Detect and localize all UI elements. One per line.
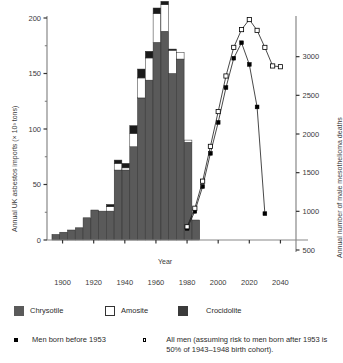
bar-segment (145, 80, 153, 240)
data-point-filled (232, 56, 236, 60)
y-tick-label-left: 0 (37, 236, 41, 245)
data-point-open (239, 28, 243, 32)
bar-segment (75, 228, 83, 240)
y-tick-label-right: 2500 (303, 91, 320, 100)
legend-item-amosite: Amosite (105, 306, 148, 316)
open-square-marker-icon (143, 338, 146, 342)
x-tick-label: 1920 (85, 278, 102, 287)
crocidolite-swatch-icon (178, 306, 188, 316)
bar-segment (99, 211, 107, 240)
x-tick-label: 2040 (272, 278, 289, 287)
bar-segment (122, 170, 130, 240)
data-point-open (185, 225, 189, 229)
legend-label-men-born-before-1953: Men born before 1953 (32, 335, 106, 345)
y-tick-label-left: 200 (28, 14, 41, 23)
bar-segment (169, 74, 177, 241)
data-point-open (247, 17, 251, 21)
y-tick-label-right: 2000 (303, 130, 320, 139)
bar-segment (130, 133, 138, 146)
bar-segment (60, 232, 68, 240)
x-tick-label: 1980 (179, 278, 196, 287)
bar-segment (161, 5, 169, 32)
data-point-open (224, 74, 228, 78)
x-tick-label: 2020 (241, 278, 258, 287)
data-point-open (208, 144, 212, 148)
bar-segment (68, 230, 76, 240)
bar-segment (145, 51, 153, 58)
bar-segment (122, 168, 130, 170)
amosite-swatch-icon (105, 306, 115, 316)
legend-label-amosite: Amosite (121, 306, 148, 316)
data-point-filled (224, 86, 228, 90)
data-point-open (263, 45, 267, 49)
y-axis-right-title: Annual number of male mesothelioma death… (336, 117, 343, 258)
bar-segment (153, 14, 161, 43)
bar-segment (114, 170, 122, 240)
filled-square-marker-icon (14, 338, 18, 342)
line-men-born-before-1953 (187, 43, 265, 229)
legend-label-chrysotile: Chrysotile (30, 306, 63, 316)
asbestos-mesothelioma-chart: 0501001502005001000150020002500300019001… (0, 0, 342, 300)
data-point-open (193, 206, 197, 210)
data-point-open (232, 45, 236, 49)
bar-segment (184, 140, 192, 142)
bar-segment (138, 98, 146, 240)
legend-item-men-born-before-1953: Men born before 1953 (14, 335, 106, 345)
data-point-filled (240, 41, 244, 45)
bar-segment (161, 31, 169, 240)
data-point-open (255, 28, 259, 32)
bar-segment (161, 1, 169, 4)
bar-segment (106, 207, 114, 211)
bar-segment (176, 59, 184, 240)
y-tick-label-right: 3000 (303, 52, 320, 61)
bar-segment (106, 211, 114, 240)
y-tick-label-right: 500 (303, 246, 316, 255)
legend-item-all-men: All men (assuming risk to men born after… (143, 335, 339, 355)
bar-segment (153, 8, 161, 14)
line-all-men (187, 20, 280, 227)
legend-label-crocidolite: Crocidolite (206, 306, 241, 316)
x-tick-label: 1960 (148, 278, 165, 287)
data-point-filled (216, 121, 220, 125)
y-axis-left-title: Annual UK asbestos imports (× 10³ tons) (11, 106, 18, 232)
y-tick-label-left: 50 (33, 180, 41, 189)
bar-segment (130, 147, 138, 240)
x-axis-title: Year (158, 258, 172, 265)
x-tick-label: 2000 (210, 278, 227, 287)
y-tick-label-right: 1000 (303, 207, 320, 216)
bar-segment (122, 163, 130, 167)
data-point-open (278, 65, 282, 69)
data-point-open (201, 179, 205, 183)
y-tick-label-right: 1500 (303, 168, 320, 177)
bar-segment (138, 69, 146, 78)
bar-segment (114, 160, 122, 163)
y-tick-label-left: 100 (28, 125, 41, 134)
chrysotile-swatch-icon (14, 306, 24, 316)
legend-item-crocidolite: Crocidolite (178, 306, 241, 316)
bar-segment (52, 234, 60, 240)
bar-segment (91, 210, 99, 240)
y-tick-label-left: 150 (28, 69, 41, 78)
data-point-filled (247, 63, 251, 67)
data-point-filled (255, 105, 259, 109)
bar-segment (169, 50, 177, 73)
data-point-filled (263, 212, 267, 216)
x-tick-label: 1940 (116, 278, 133, 287)
legend-label-all-men: All men (assuming risk to men born after… (166, 335, 339, 355)
bar-segment (169, 49, 177, 50)
bar-segment (138, 78, 146, 98)
bar-segment (114, 163, 122, 170)
legend-item-chrysotile: Chrysotile (14, 306, 63, 316)
bar-segment (145, 58, 153, 80)
data-point-open (271, 64, 275, 68)
bar-segment (106, 204, 114, 206)
data-point-open (216, 109, 220, 113)
bar-segment (192, 220, 200, 240)
bar-segment (130, 126, 138, 134)
x-tick-label: 1900 (54, 278, 71, 287)
bar-segment (176, 52, 184, 59)
bar-segment (83, 218, 91, 240)
bar-segment (153, 42, 161, 240)
